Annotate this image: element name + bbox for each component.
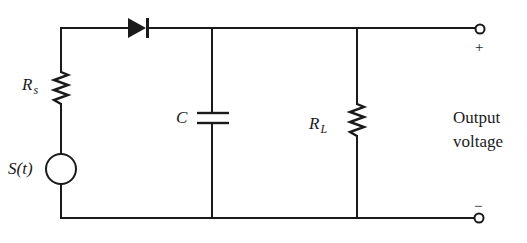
capacitor-label: C (176, 109, 187, 126)
output-label-line2: voltage (453, 133, 503, 150)
top-wire (61, 28, 476, 72)
load-resistor-icon (350, 28, 364, 218)
output-minus-sign: − (474, 199, 482, 214)
circuit-diagram (0, 0, 527, 243)
source-resistor-icon (54, 72, 68, 154)
source-label: S(t) (8, 160, 33, 177)
output-minus-terminal (475, 214, 484, 223)
capacitor-icon (197, 28, 229, 218)
source-resistor-label: Rs (22, 76, 38, 93)
source-icon (46, 154, 76, 218)
output-label-line1: Output (453, 109, 500, 126)
output-plus-sign: + (475, 40, 483, 55)
output-plus-terminal (476, 25, 485, 34)
diode-icon (128, 18, 148, 38)
load-resistor-label: RL (309, 115, 327, 132)
